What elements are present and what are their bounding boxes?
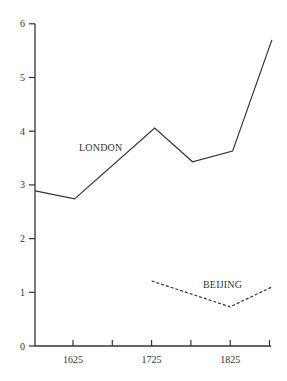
y-axis-ticks: 0123456 <box>20 18 35 351</box>
y-tick-label: 3 <box>20 179 25 190</box>
line-chart: 0123456 162517251825 LONDON BEIJING <box>0 0 287 381</box>
x-tick-label: 1725 <box>142 354 162 365</box>
x-axis-ticks: 162517251825 <box>63 340 270 365</box>
label-beijing: BEIJING <box>203 279 242 290</box>
label-london: LONDON <box>79 142 122 153</box>
x-tick-label: 1625 <box>63 354 83 365</box>
series-line-london <box>35 40 272 199</box>
y-tick-label: 5 <box>20 72 25 83</box>
y-tick-label: 6 <box>20 18 25 29</box>
y-tick-label: 2 <box>20 233 25 244</box>
x-tick-label: 1825 <box>220 354 240 365</box>
y-tick-label: 0 <box>20 341 25 352</box>
series-lines <box>35 40 272 307</box>
y-tick-label: 1 <box>20 287 25 298</box>
y-tick-label: 4 <box>20 126 25 137</box>
axes <box>35 24 271 346</box>
